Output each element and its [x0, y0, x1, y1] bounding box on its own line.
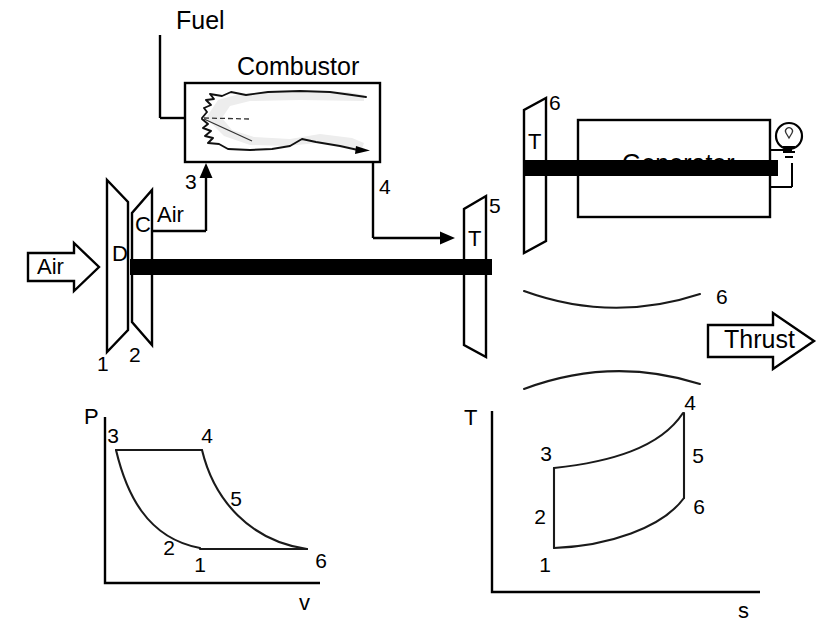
state-5-label: 5: [489, 194, 501, 217]
pv-point-4: 4: [201, 424, 213, 447]
light-bulb-group: [770, 123, 802, 187]
ts-point-6: 6: [693, 495, 705, 518]
turbine-main-label: T: [468, 226, 481, 251]
combustor-group: [185, 83, 380, 162]
pv-point-2: 2: [163, 536, 175, 559]
state-3-label: 3: [185, 170, 197, 193]
turbine-main-group: [464, 196, 488, 357]
ts-process-3-4: [554, 413, 683, 468]
ts-diagram-group: [492, 411, 760, 592]
pv-process-1-2-3: [116, 450, 200, 548]
nozzle-upper-wall: [524, 291, 700, 308]
figure-canvas: Combustor Fuel Air Air Generator Thrust …: [0, 0, 824, 634]
turbine-main-shape: [464, 196, 486, 357]
thrust-label: Thrust: [724, 325, 795, 353]
station4-arrowhead-icon: [440, 232, 455, 245]
state-6-turbine-label: 6: [549, 91, 561, 114]
ts-point-3: 3: [540, 442, 552, 465]
ts-point-5: 5: [692, 444, 704, 467]
ts-point-2: 2: [534, 505, 546, 528]
ts-axes: [492, 411, 760, 592]
diffuser-label: D: [112, 241, 128, 266]
turbine-main-shaft-overlap: [464, 259, 488, 275]
generator-label: Generator: [622, 149, 735, 177]
pv-point-3: 3: [107, 424, 119, 447]
state-1-label: 1: [97, 352, 109, 375]
pv-point-6: 6: [315, 549, 327, 572]
ts-point-4: 4: [684, 391, 696, 414]
ts-ylabel: T: [464, 405, 477, 430]
nozzle-group: [524, 291, 700, 389]
state-2-label: 2: [129, 343, 141, 366]
nozzle-lower-wall: [524, 371, 700, 389]
ts-process-6-1: [554, 498, 684, 548]
ts-xlabel: s: [738, 598, 749, 623]
ts-point-1: 1: [539, 553, 551, 576]
main-shaft: [130, 259, 492, 275]
station3-arrowhead-icon: [200, 163, 213, 178]
fuel-label: Fuel: [176, 6, 225, 34]
state-6-nozzle-label: 6: [716, 285, 728, 308]
air-inlet-label: Air: [37, 254, 64, 279]
compressor-label: C: [135, 212, 151, 237]
turbine-power-label: T: [528, 129, 541, 154]
pv-xlabel: v: [299, 590, 310, 615]
pv-point-1: 1: [194, 553, 206, 576]
diagram-svg: Combustor Fuel Air Air Generator Thrust …: [0, 0, 824, 634]
diffuser-group: [107, 180, 128, 352]
pv-ylabel: P: [84, 404, 99, 429]
state-4-label: 4: [379, 175, 391, 198]
combustor-title: Combustor: [237, 52, 359, 80]
diffuser-shape: [107, 180, 128, 352]
pv-process-4-5-6: [202, 450, 307, 549]
pv-point-5: 5: [230, 487, 242, 510]
bleed-air-label: Air: [157, 202, 184, 227]
